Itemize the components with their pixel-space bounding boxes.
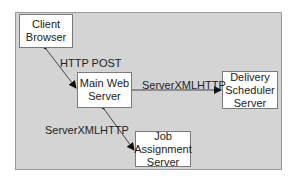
node-line: Server [80, 90, 129, 103]
edge-label-http-post: HTTP POST [60, 57, 122, 69]
node-line: Main Web [80, 77, 129, 90]
edge-label-serverxmlhttp-delivery: ServerXMLHTTP [142, 79, 226, 91]
node-main-web-server: Main Web Server [77, 72, 132, 108]
node-delivery-scheduler-server: Delivery Scheduler Server [222, 71, 278, 109]
node-client-browser: Client Browser [19, 14, 73, 48]
node-line: Browser [26, 31, 66, 44]
node-line: Client [26, 18, 66, 31]
node-job-assignment-server: Job Assignment Server [135, 131, 191, 167]
node-line: Delivery [225, 71, 275, 84]
node-line: Job [134, 130, 191, 143]
edge-label-serverxmlhttp-job: ServerXMLHTTP [45, 124, 129, 136]
node-line: Scheduler [225, 84, 275, 97]
node-line: Assignment [134, 143, 191, 156]
node-line: Server [134, 156, 191, 169]
node-line: Server [225, 97, 275, 110]
